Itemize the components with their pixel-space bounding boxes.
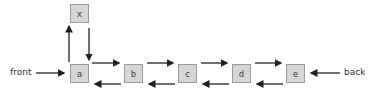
- node-d: d: [232, 64, 251, 83]
- front-label: front: [10, 67, 31, 77]
- node-b: b: [124, 64, 143, 83]
- node-c: c: [178, 64, 197, 83]
- node-e: e: [286, 64, 305, 83]
- back-label: back: [344, 67, 365, 77]
- node-a: a: [70, 64, 89, 83]
- node-x: x: [70, 4, 89, 23]
